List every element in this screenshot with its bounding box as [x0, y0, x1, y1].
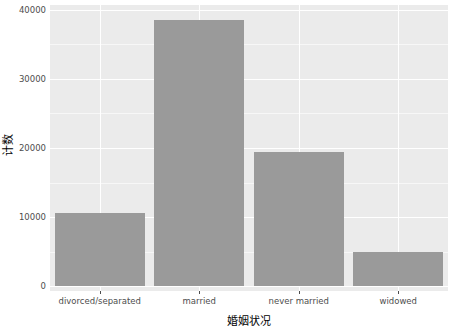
- gridline-major-horizontal: [50, 79, 448, 80]
- y-axis-tick-label: 30000: [14, 74, 46, 84]
- y-axis-title-text: 计数: [0, 134, 15, 156]
- gridline-major-horizontal: [50, 148, 448, 149]
- plot-panel: [50, 5, 448, 291]
- x-axis-tick-mark: [100, 291, 101, 294]
- y-axis-tick-label: 20000: [14, 143, 46, 153]
- y-axis-tick-label: 0: [14, 281, 46, 291]
- gridline-minor-horizontal: [50, 44, 448, 45]
- y-axis-tick-label: 40000: [14, 5, 46, 15]
- x-axis-tick-label: divorced/separated: [59, 296, 141, 306]
- x-axis-tick-marks: [50, 291, 448, 295]
- x-axis-tick-label: widowed: [380, 296, 418, 306]
- bar-chart: 计数 010000200003000040000 divorced/separa…: [0, 0, 455, 336]
- x-axis-tick-mark: [299, 291, 300, 294]
- bar-never-married: [254, 152, 344, 286]
- bar-divorced-separated: [55, 213, 145, 286]
- gridline-major-vertical: [398, 5, 399, 291]
- gridline-major-horizontal: [50, 286, 448, 287]
- y-axis-tick-labels: 010000200003000040000: [14, 0, 46, 291]
- x-axis-tick-mark: [199, 291, 200, 294]
- gridline-major-horizontal: [50, 10, 448, 11]
- gridline-minor-horizontal: [50, 113, 448, 114]
- x-axis-tick-label: married: [183, 296, 216, 306]
- y-axis-tick-label: 10000: [14, 212, 46, 222]
- y-axis-title: 计数: [0, 0, 14, 290]
- x-axis-title: 婚姻状况: [50, 312, 448, 328]
- x-axis-tick-mark: [398, 291, 399, 294]
- x-axis-tick-label: never married: [269, 296, 329, 306]
- bar-married: [154, 20, 244, 286]
- x-axis-tick-labels: divorced/separatedmarriednever marriedwi…: [50, 296, 448, 310]
- bar-widowed: [353, 252, 443, 286]
- gridline-minor-horizontal: [50, 183, 448, 184]
